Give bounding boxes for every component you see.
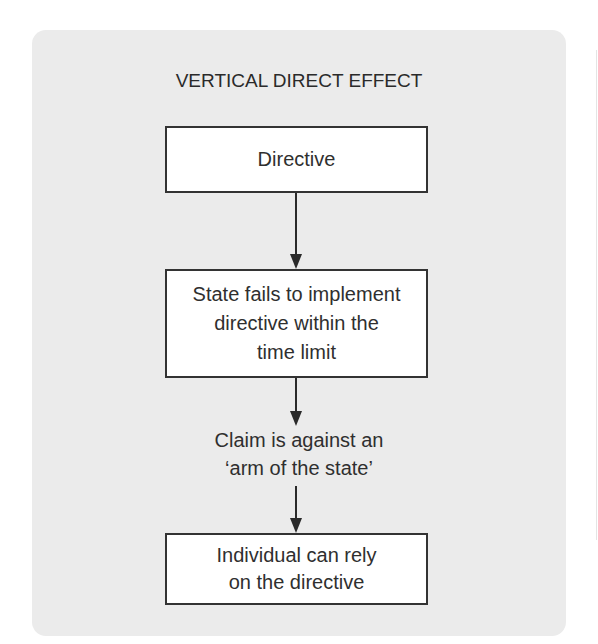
box-text-line: directive within the <box>214 309 379 338</box>
diagram-panel: VERTICAL DIRECT EFFECT Directive State f… <box>32 30 566 636</box>
arrow-shaft <box>295 378 297 414</box>
arrow-shaft <box>295 486 297 521</box>
arrow-head <box>290 518 302 533</box>
arrow-head <box>290 254 302 269</box>
page-edge-line <box>596 50 597 540</box>
label-text-line: ‘arm of the state’ <box>32 454 566 482</box>
diagram-title: VERTICAL DIRECT EFFECT <box>32 70 566 92</box>
box-text-line: time limit <box>257 338 336 367</box>
flow-box-directive: Directive <box>165 126 428 193</box>
arrow-down-icon <box>290 193 302 269</box>
flow-label-claim: Claim is against an ‘arm of the state’ <box>32 426 566 482</box>
arrow-head <box>290 411 302 426</box>
box-text-line: Directive <box>258 145 336 174</box>
arrow-down-icon <box>290 378 302 426</box>
arrow-shaft <box>295 193 297 257</box>
label-text-line: Claim is against an <box>32 426 566 454</box>
box-text-line: on the directive <box>229 569 365 596</box>
box-text-line: Individual can rely <box>216 542 376 569</box>
flow-box-state-fails: State fails to implement directive withi… <box>165 269 428 378</box>
box-text-line: State fails to implement <box>193 280 401 309</box>
flow-box-individual-can-rely: Individual can rely on the directive <box>165 533 428 605</box>
arrow-down-icon <box>290 486 302 533</box>
